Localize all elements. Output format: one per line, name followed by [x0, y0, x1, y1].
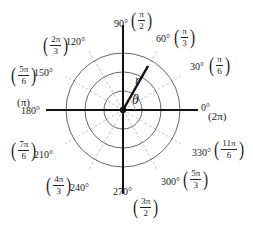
angle-180-deg: 180°	[21, 106, 40, 116]
origin-point	[120, 107, 126, 113]
angle-0-rad: (2π)	[208, 110, 226, 122]
angle-270-rad: (3π2)	[132, 196, 160, 218]
angle-90-rad: (π2)	[130, 9, 153, 31]
angle-240-deg: 240°	[70, 183, 89, 193]
angle-270-deg: 270°	[113, 187, 132, 197]
angle-120-deg: 120°	[66, 37, 85, 47]
angle-30-deg: 30°	[190, 62, 204, 72]
angle-240-rad: (4π3)	[45, 174, 73, 196]
angle-330-rad: (11π6)	[213, 138, 245, 160]
angle-60-rad: (π3)	[173, 26, 196, 48]
theta-label: θ	[132, 92, 139, 108]
angle-300-rad: (5π3)	[182, 168, 210, 190]
r-label: r	[135, 72, 140, 88]
angle-330-deg: 330°	[192, 148, 211, 158]
angle-60-deg: 60°	[156, 34, 170, 44]
angle-30-rad: (π6)	[208, 54, 231, 76]
angle-150-deg: 150°	[34, 68, 53, 78]
angle-210-deg: 210°	[34, 150, 53, 160]
angle-300-deg: 300°	[161, 177, 180, 187]
angle-90-deg: 90°	[114, 19, 128, 29]
